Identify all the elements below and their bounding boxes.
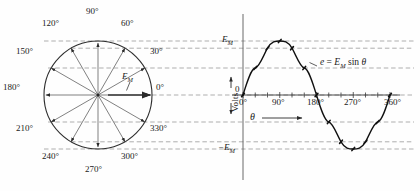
ray-120 — [71, 48, 98, 95]
y-axis-max-label: EM — [222, 35, 233, 46]
x-tick-label-180: 180° — [307, 98, 324, 107]
phasor-angle-label-90: 90° — [86, 7, 99, 16]
phasor-vector-label: EM — [122, 72, 133, 83]
phasor-angle-label-270: 270° — [85, 165, 102, 174]
y-axis-min-e: −E — [218, 142, 230, 152]
marker-270 — [352, 147, 355, 150]
phasor-angle-label-60: 60° — [121, 19, 134, 28]
equation-amplitude-sub: M — [340, 62, 345, 69]
equation-lhs: e — [320, 57, 324, 67]
ray-300 — [98, 95, 125, 142]
ray-60 — [98, 48, 125, 95]
ray-150 — [51, 68, 98, 95]
ray-330 — [98, 95, 145, 122]
marker-330 — [376, 120, 379, 123]
y-axis-min-label: −EM — [218, 143, 235, 154]
x-axis-title-theta: θ — [250, 111, 255, 122]
marker-90 — [278, 39, 281, 42]
figure-canvas — [0, 0, 420, 191]
phasor-angle-label-0: 0° — [156, 83, 164, 92]
x-axis-title: θ — [250, 112, 255, 122]
phasor-circle-group — [44, 41, 152, 149]
equation-variable: θ — [361, 57, 366, 67]
equation-function: sin — [348, 57, 359, 67]
phasor-angle-label-300: 300° — [121, 152, 138, 161]
equation-leader-line — [310, 63, 318, 67]
ray-210 — [51, 95, 98, 122]
x-tick-label-360: 360° — [384, 98, 401, 107]
y-axis-max-sub: M — [228, 39, 233, 46]
marker-300 — [364, 140, 367, 143]
phasor-angle-label-30: 30° — [150, 47, 163, 56]
phasor-angle-label-210: 210° — [16, 124, 33, 133]
phasor-vector-label-sub: M — [128, 76, 133, 83]
phasor-center-dot — [97, 94, 100, 97]
x-tick-label-0: 0° — [239, 98, 247, 107]
y-axis-min-sub: M — [230, 147, 235, 154]
phasor-angle-label-120: 120° — [42, 19, 59, 28]
figure-root: 0° 30° 60° 90° 120° 150° 180° 210° 240° … — [0, 0, 420, 191]
ray-240 — [71, 95, 98, 142]
marker-60 — [266, 47, 269, 50]
x-tick-label-270: 270° — [344, 98, 361, 107]
equation-annotation: e = EM sin θ — [320, 58, 366, 69]
phasor-angle-label-330: 330° — [150, 124, 167, 133]
equation-equals: = — [327, 57, 332, 67]
x-tick-label-90: 90° — [272, 98, 285, 107]
phasor-angle-label-240: 240° — [42, 152, 59, 161]
phasor-angle-label-150: 150° — [16, 47, 33, 56]
marker-30 — [254, 66, 257, 69]
phasor-angle-label-180: 180° — [3, 83, 20, 92]
